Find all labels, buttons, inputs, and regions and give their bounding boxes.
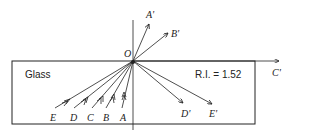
- ray-d-prime: [133, 61, 183, 103]
- refractive-index-label: R.I. = 1.52: [195, 69, 241, 80]
- label-c-prime: C': [272, 67, 281, 78]
- label-b: B: [103, 112, 109, 123]
- label-a: A: [120, 112, 126, 123]
- label-b-prime: B': [171, 28, 179, 39]
- medium-label: Glass: [25, 69, 51, 80]
- origin-label: O: [124, 48, 131, 59]
- label-d-prime: D': [181, 108, 190, 119]
- label-e-prime: E': [209, 108, 217, 119]
- label-e: E: [50, 112, 56, 123]
- label-a-prime: A': [146, 9, 154, 20]
- ray-a-prime: [133, 24, 149, 61]
- ray-e: [55, 61, 133, 108]
- ray-c: [92, 61, 133, 108]
- ray-e-prime: [133, 61, 212, 104]
- label-c: C: [87, 112, 94, 123]
- ray-b-prime: [133, 33, 168, 61]
- label-d: D: [70, 112, 77, 123]
